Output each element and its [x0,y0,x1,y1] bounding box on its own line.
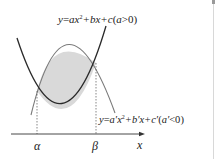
frame-right-border [213,0,214,159]
frame-corner-mark [212,0,215,4]
shaded-region [37,51,96,109]
alpha-label: α [34,139,41,153]
x-axis-arrow-icon [139,132,145,136]
lower-curve-equation: y=a′x2+b′x+c′(a′<0) [98,114,184,126]
x-axis-label: x [136,138,143,152]
beta-label: β [91,139,98,153]
upper-curve-equation: y=ax2+bx+c(a>0) [57,13,138,26]
parabola-area-diagram: α β x y=ax2+bx+c(a>0) y=a′x2+b′x+c′(a′<0… [0,0,222,159]
